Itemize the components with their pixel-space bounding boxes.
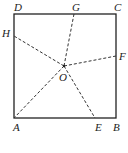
label-d: D <box>13 1 22 13</box>
segment-oh <box>14 36 64 66</box>
label-e: E <box>94 121 102 133</box>
label-a: A <box>12 121 20 133</box>
label-c: C <box>114 1 122 13</box>
segment-of <box>64 56 116 66</box>
segment-og <box>64 14 74 66</box>
point-o <box>63 65 65 67</box>
label-f: F <box>118 50 126 62</box>
label-o: O <box>59 71 67 83</box>
segment-oe <box>64 66 95 118</box>
label-h: H <box>1 27 11 39</box>
geometry-figure: D G C H F O A E B <box>0 0 128 153</box>
label-b: B <box>113 121 120 133</box>
segment-oa <box>14 66 64 118</box>
label-g: G <box>72 1 80 13</box>
